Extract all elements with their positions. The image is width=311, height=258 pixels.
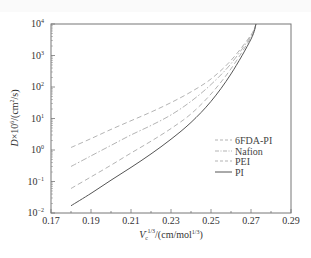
y-tick-label: 100 [31,144,44,155]
diffusion-chart: 10−210−1100101102103104 0.170.190.210.23… [0,0,311,258]
series-layer [71,24,256,206]
legend-label: PI [235,167,244,178]
legend: 6FDA-PINafionPEIPI [215,135,272,178]
x-axis-title: Vc−1/3/(cm/mol1/3) [139,228,203,241]
y-tick-label: 104 [31,18,44,29]
series-6fda-pi [71,24,256,148]
major-ticks [51,24,291,213]
y-tick-label: 101 [31,113,44,124]
legend-label: 6FDA-PI [235,135,272,146]
x-tick-label: 0.17 [42,215,60,226]
x-tick-label: 0.23 [162,215,180,226]
x-tick-label: 0.25 [202,215,220,226]
legend-item-pei: PEI [215,156,250,167]
legend-label: PEI [235,156,250,167]
y-tick-labels: 10−210−1100101102103104 [28,18,44,218]
y-axis-title: D×106/(cm2/s) [9,89,21,147]
x-tick-labels: 0.170.190.210.230.250.270.29 [42,215,300,226]
y-tick-label: 10−1 [28,176,44,187]
y-tick-label: 102 [31,81,44,92]
series-pei [71,24,256,188]
series-pi [71,24,256,206]
x-tick-label: 0.29 [282,215,300,226]
legend-item-pi: PI [215,167,244,178]
x-tick-label: 0.21 [122,215,140,226]
x-tick-label: 0.19 [82,215,100,226]
plot-frame [51,24,291,213]
x-tick-label: 0.27 [242,215,260,226]
legend-item-6fda-pi: 6FDA-PI [215,135,272,146]
y-tick-label: 103 [31,50,44,61]
